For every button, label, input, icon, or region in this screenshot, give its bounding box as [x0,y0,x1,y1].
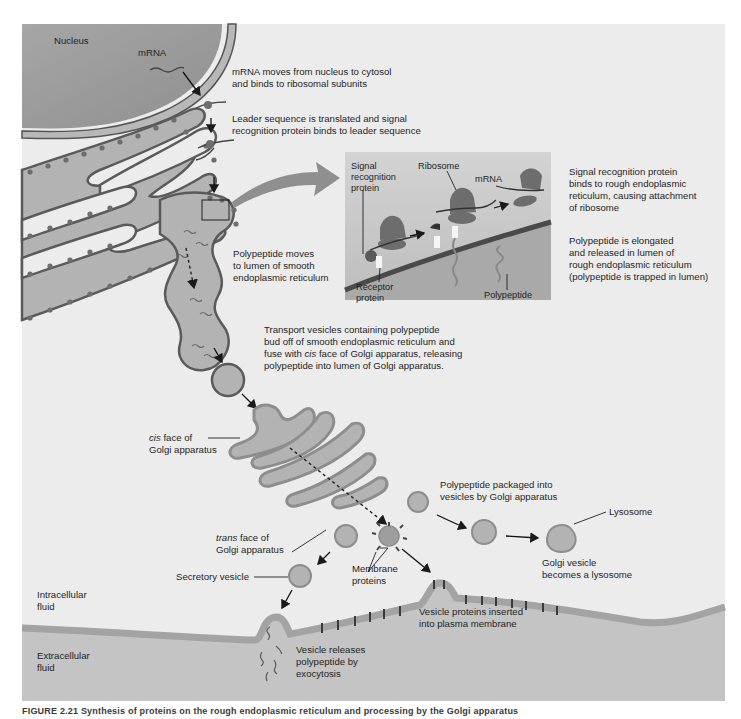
inset-label-polypeptide: Polypeptide [484,290,532,300]
figure-caption: FIGURE 2.21 Synthesis of proteins on the… [22,706,518,719]
label-lysosome: Lysosome [609,506,652,517]
transport-vesicle [212,364,244,396]
inset-label-mrna: mRNA [475,174,503,184]
note-packaged: Polypeptide packaged into vesicles by Go… [440,479,558,502]
label-mrna: mRNA [138,47,167,58]
note-vesicle-proteins-inserted: Vesicle proteins inserted into plasma me… [419,606,526,629]
label-nucleus: Nucleus [54,35,89,46]
note-step2: Leader sequence is translated and signal… [232,113,421,136]
protein-synthesis-diagram: Nucleus mRNA mRNA moves from nucleus to … [0,0,741,719]
inset-label-ribosome: Ribosome [418,161,459,171]
lysosome [547,525,576,552]
note-polypeptide-moves: Polypeptide moves to lumen of smooth end… [233,248,328,283]
golgi-vesicle-2 [472,520,496,544]
note-transport-vesicles: Transport vesicles containing polypeptid… [264,324,465,371]
label-secretory-vesicle: Secretory vesicle [176,571,249,582]
secretory-vesicle-upper [335,525,357,547]
secretory-vesicle [289,565,311,587]
golgi-vesicle-1 [408,492,428,512]
